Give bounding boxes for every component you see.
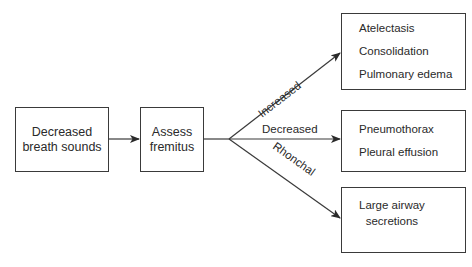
result-item: Atelectasis (359, 17, 465, 40)
result-item: Pneumothorax (359, 118, 465, 141)
node-text: breath sounds (22, 140, 101, 155)
edge-label-decreased: Decreased (262, 123, 318, 135)
result-item: secretions (359, 213, 425, 229)
node-text: fremitus (150, 140, 194, 155)
node-text: Decreased (32, 125, 92, 140)
node-decreased-result: Pneumothorax Pleural effusion (341, 110, 466, 172)
node-decreased-breath-sounds: Decreased breath sounds (15, 107, 109, 172)
edge-label-rhonchal: Rhonchal (271, 140, 318, 178)
node-text: Assess (152, 125, 192, 140)
edge-label-increased: Increased (256, 79, 303, 119)
node-increased-result: Atelectasis Consolidation Pulmonary edem… (341, 13, 466, 90)
result-item: Large airway (359, 197, 425, 213)
result-item: Pulmonary edema (359, 63, 465, 86)
result-item: Consolidation (359, 40, 465, 63)
result-item: Pleural effusion (359, 141, 465, 164)
node-assess-fremitus: Assess fremitus (140, 107, 204, 172)
node-rhonchal-result: Large airway secretions (341, 187, 466, 253)
